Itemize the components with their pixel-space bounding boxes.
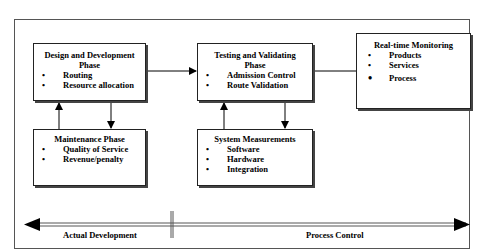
list-item: Hardware [198, 154, 312, 164]
testing-validating-box: Testing and Validating Phase Admission C… [197, 43, 313, 101]
list-item: Process [360, 73, 470, 83]
box-title-line2: Phase [198, 60, 312, 70]
timeline-left-arrowhead [24, 218, 40, 231]
timeline-right-arrowhead [454, 218, 470, 231]
maintenance-phase-box: Maintenance Phase Quality of Service Rev… [33, 129, 146, 186]
list-item: Integration [198, 164, 312, 174]
box-title-line2: Phase [34, 60, 145, 70]
box-title: Testing and Validating [198, 50, 312, 60]
box-title: System Measurements [198, 134, 312, 144]
actual-development-label: Actual Development [63, 230, 137, 240]
box-title: Real-time Monitoring [357, 40, 470, 50]
list-item: Products [360, 50, 470, 60]
system-measurements-box: System Measurements Software Hardware In… [197, 129, 313, 186]
box-title: Design and Development [34, 50, 145, 60]
realtime-monitoring-box: Real-time Monitoring Products Services P… [356, 33, 471, 109]
list-item: Route Validation [198, 80, 312, 90]
box-title: Maintenance Phase [34, 134, 145, 144]
list-item: Services [360, 60, 470, 70]
list-item: Routing [34, 70, 145, 80]
list-item: Revenue/penalty [34, 154, 145, 164]
list-item: Software [198, 144, 312, 154]
list-item: Resource allocation [34, 80, 145, 90]
design-development-box: Design and Development Phase Routing Res… [33, 43, 146, 101]
process-control-label: Process Control [306, 230, 364, 240]
list-item: Admission Control [198, 70, 312, 80]
list-item: Quality of Service [34, 144, 145, 154]
